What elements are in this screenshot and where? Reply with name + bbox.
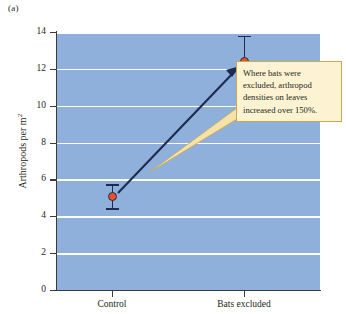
x-tick-label-bats-excluded: Bats excluded — [184, 299, 304, 309]
gridline-8 — [57, 143, 320, 145]
x-tick-bats-excluded — [244, 291, 245, 297]
y-tick-label-0: 0 — [6, 284, 46, 294]
panel-label: (a) — [8, 3, 19, 13]
y-tick-4 — [50, 216, 56, 217]
gridline-2 — [57, 253, 320, 255]
y-tick-label-14: 14 — [6, 26, 46, 36]
gridline-14 — [57, 32, 320, 34]
gridline-6 — [57, 179, 320, 181]
gridline-4 — [57, 216, 320, 218]
y-tick-14 — [50, 32, 56, 33]
y-tick-12 — [50, 69, 56, 70]
chart-figure: (a) 14 12 10 8 6 4 2 0 Arthropods per m2… — [0, 0, 346, 314]
y-tick-8 — [50, 143, 56, 144]
y-tick-2 — [50, 253, 56, 254]
y-tick-6 — [50, 179, 56, 180]
x-tick-control — [112, 291, 113, 297]
errorbar-cap-control-top — [106, 184, 119, 186]
y-tick-0 — [50, 290, 56, 291]
errorbar-cap-bats-excluded-top — [238, 36, 251, 38]
y-axis-title: Arthropods per m2 — [16, 51, 28, 251]
errorbar-cap-control-bottom — [106, 208, 119, 210]
y-axis-line — [56, 31, 57, 291]
y-axis-title-superscript: 2 — [16, 114, 24, 118]
y-tick-10 — [50, 106, 56, 107]
x-tick-label-control: Control — [52, 299, 172, 309]
callout-annotation: Where bats were excluded, arthropod dens… — [236, 61, 342, 122]
y-axis-title-text: Arthropods per m — [17, 117, 28, 188]
x-axis-line — [56, 290, 321, 291]
